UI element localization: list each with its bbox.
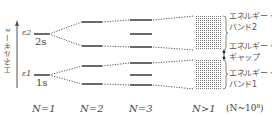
column-note-n-many: (N~10⁸) <box>226 104 264 113</box>
energy-bands <box>195 16 222 89</box>
gap-label-line2: ギャップ <box>229 54 260 62</box>
band-1-label-line2: バンド1 <box>229 81 257 89</box>
arrow-up-icon <box>15 20 19 26</box>
levels-n2 <box>82 22 102 84</box>
epsilon-1-symbol: ε1 <box>22 70 31 78</box>
energy-band-diagram: エネルギー ε ε2 2s ε1 1s エネルギー・ バンド2 エネルギー・ ギ… <box>0 0 272 117</box>
column-label-n1: N=1 <box>32 104 56 114</box>
levels-n3 <box>130 20 152 85</box>
column-label-n2: N=2 <box>80 104 104 114</box>
column-label-n-many: N>1 <box>192 104 216 114</box>
gap-label-line1: エネルギー・ <box>229 43 272 51</box>
column-label-n3: N=3 <box>129 104 153 114</box>
orbital-1s-label: 1s <box>36 78 48 88</box>
band-2-label-line2: バンド2 <box>229 24 257 32</box>
band-2 <box>195 16 222 50</box>
energy-axis-label: エネルギー ε <box>2 28 13 74</box>
energy-axis <box>15 20 19 88</box>
band-1-label-line1: エネルギー・ <box>229 70 272 78</box>
gap-arrow <box>223 51 226 60</box>
orbital-2s-label: 2s <box>35 37 47 47</box>
epsilon-2-symbol: ε2 <box>22 29 31 37</box>
connectors-n2-n3 <box>102 20 130 85</box>
band-2-label-line1: エネルギー・ <box>229 13 272 21</box>
connectors-n3-bands <box>153 16 194 89</box>
band-1 <box>195 60 222 89</box>
connectors-n1-n2 <box>49 22 82 84</box>
